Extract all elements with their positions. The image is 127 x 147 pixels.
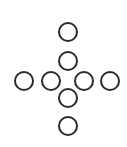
circle-top-inner [58,51,78,71]
circle-left-outer [14,71,34,91]
circle-right-inner [74,71,94,91]
circle-bottom-outer [58,116,78,136]
circle-cross-diagram [0,0,127,147]
circle-bottom-inner [58,88,78,108]
circle-left-inner [41,71,61,91]
circle-top-outer [58,22,78,42]
circle-right-outer [100,71,120,91]
